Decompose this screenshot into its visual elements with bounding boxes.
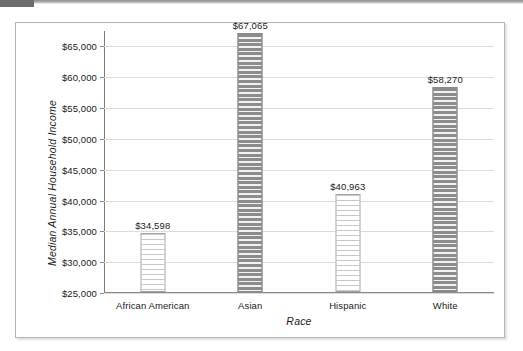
y-axis-tick (100, 262, 104, 263)
scan-corner-block (0, 0, 34, 7)
y-axis-tick-label: $55,000 (62, 103, 97, 114)
y-axis-tick (100, 46, 104, 47)
x-axis-tick-label: White (433, 300, 458, 311)
y-axis-tick-label: $60,000 (62, 72, 97, 83)
y-axis-tick (100, 170, 104, 171)
bar-value-label: $40,963 (330, 181, 365, 192)
bar-value-label: $67,065 (233, 20, 268, 31)
bar-value-label: $58,270 (428, 74, 463, 85)
y-axis-title: Median Annual Household Income (44, 73, 60, 293)
y-axis-tick-label: $50,000 (62, 133, 97, 144)
gridline (104, 293, 494, 294)
plot-area: $25,000$30,000$35,000$40,000$45,000$50,0… (104, 31, 494, 293)
y-axis-tick (100, 139, 104, 140)
y-axis-tick (100, 231, 104, 232)
y-axis-tick-label: $65,000 (62, 41, 97, 52)
x-axis-tick-label: African American (116, 300, 189, 311)
y-axis-tick (100, 201, 104, 202)
chart-figure-frame: Median Annual Household Income $25,000$3… (15, 22, 505, 338)
y-axis-tick-label: $45,000 (62, 164, 97, 175)
x-axis-title: Race (104, 315, 494, 327)
y-axis-tick-label: $40,000 (62, 195, 97, 206)
y-axis-tick (100, 108, 104, 109)
bar-value-label: $34,598 (135, 220, 170, 231)
y-axis-tick (100, 77, 104, 78)
y-axis-line (104, 31, 105, 293)
y-axis-tick-label: $35,000 (62, 226, 97, 237)
x-axis-tick-label: Asian (238, 300, 262, 311)
scan-top-edge (0, 0, 523, 4)
x-axis-tick-label: Hispanic (329, 300, 366, 311)
bar: $40,963 (335, 194, 360, 292)
y-axis-tick-label: $30,000 (62, 257, 97, 268)
bar: $34,598 (140, 233, 165, 292)
gridline (104, 46, 494, 47)
bar: $58,270 (433, 87, 458, 292)
bar: $67,065 (238, 33, 263, 292)
y-axis-tick (100, 293, 104, 294)
y-axis-title-label: Median Annual Household Income (46, 100, 58, 266)
y-axis-tick-label: $25,000 (62, 288, 97, 299)
